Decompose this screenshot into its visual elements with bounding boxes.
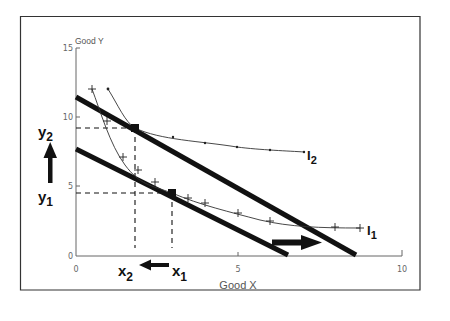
x-tick-10: 10 <box>397 265 407 274</box>
x-axis-title: Good X <box>219 279 257 291</box>
arrow-up-icon <box>44 142 58 183</box>
label-x2: x2 <box>118 262 133 284</box>
indifference-curve-i1 <box>88 85 364 232</box>
indifference-curve-i2 <box>107 88 306 154</box>
y-tick-15: 15 <box>63 44 73 53</box>
y-tick-0: 0 <box>68 252 73 261</box>
chart-canvas: 15 10 5 0 0 5 10 Good Y Good X <box>0 0 450 321</box>
label-y2: y2 <box>38 123 53 144</box>
label-i1: I1 <box>367 223 377 241</box>
budget-line-original <box>76 149 288 255</box>
x-tick-0: 0 <box>73 265 78 274</box>
arrow-left-icon <box>139 260 169 271</box>
label-i2: I2 <box>307 148 317 166</box>
label-x1: x1 <box>172 262 187 284</box>
arrow-right-icon <box>272 235 322 250</box>
y-tick-5: 5 <box>68 182 73 191</box>
budget-line-new <box>76 97 356 255</box>
label-y1: y1 <box>38 188 53 209</box>
x-tick-5: 5 <box>235 265 240 274</box>
y-axis-title: Good Y <box>75 36 104 46</box>
tangency-point-original <box>168 189 176 197</box>
axes <box>76 48 402 256</box>
y-tick-10: 10 <box>63 113 73 122</box>
tangency-point-new <box>131 124 139 132</box>
